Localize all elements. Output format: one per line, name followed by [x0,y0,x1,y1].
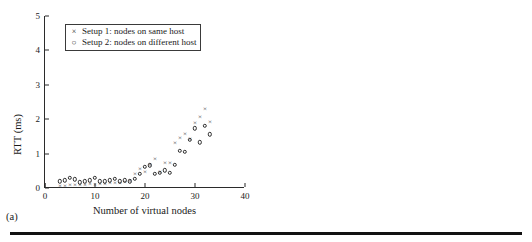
data-point-setup2 [168,170,172,174]
y-tick-label: 0 [36,183,41,193]
data-point-setup1: × [143,168,147,175]
data-point-setup2 [208,132,212,136]
data-point-setup1: × [73,181,77,188]
subfigure-label-a: (a) [6,212,18,223]
x-tick-label: 20 [141,191,150,201]
data-point-setup1: × [178,135,182,142]
data-point-setup1: × [58,182,62,189]
y-tick-label: 5 [36,11,41,21]
tick-mark [245,183,246,187]
tick-mark [45,50,49,51]
tick-mark [45,16,49,17]
x-tick-label: 30 [191,191,200,201]
data-point-setup1: × [208,118,212,125]
y-tick-a-3: 3 [36,80,46,89]
data-point-setup1: × [183,130,187,137]
panel-a: RTT (ms) 0 1 2 3 4 5 0 10 20 30 40 ×××××… [0,0,266,242]
tick-mark [45,183,46,187]
data-point-setup2 [183,150,187,154]
x-tick-label: 10 [91,191,100,201]
data-point-setup1: × [163,160,167,167]
y-tick-a-2: 2 [36,115,46,124]
tick-mark [195,183,196,187]
data-point-setup2 [153,172,157,176]
x-tick-a-1: 10 [91,187,100,201]
y-tick-a-1: 1 [36,149,46,158]
data-point-setup2 [203,124,207,128]
y-tick-label: 2 [36,114,41,124]
legend-row-setup-1: × Setup 1: nodes on same host [69,26,197,37]
x-tick-label: 0 [43,191,48,201]
data-point-setup2 [198,140,202,144]
data-point-setup2 [193,126,197,130]
tick-mark [45,119,49,120]
data-point-setup1: × [93,181,97,188]
data-point-setup2 [173,162,177,166]
data-point-setup1: × [153,155,157,162]
y-tick-label: 1 [36,148,41,158]
data-point-setup1: × [198,114,202,121]
plot-area-a: 0 1 2 3 4 5 0 10 20 30 40 ××××××××××××××… [44,16,244,188]
data-point-setup1: × [203,105,207,112]
data-point-setup1: × [168,159,172,166]
x-tick-a-4: 40 [241,187,250,201]
x-tick-label: 40 [241,191,250,201]
x-tick-a-0: 0 [43,187,48,201]
data-point-setup1: × [63,182,67,189]
data-point-setup1: × [68,181,72,188]
y-tick-a-4: 4 [36,46,46,55]
data-point-setup2 [178,149,182,153]
y-tick-label: 3 [36,79,41,89]
y-tick-label: 4 [36,45,41,55]
y-axis-label-a: RTT (ms) [13,114,24,155]
data-point-setup2 [138,171,142,175]
panel-b: Throughput (Mbps) 10 10.5 11 11.5 12 0 1… [266,0,532,242]
tick-mark [145,183,146,187]
legend-label: Setup 2: nodes on different host [82,37,197,48]
tick-mark [45,84,49,85]
y-tick-a-5: 5 [36,12,46,21]
legend-a: × Setup 1: nodes on same host ○ Setup 2:… [65,24,201,51]
legend-label: Setup 1: nodes on same host [82,26,184,37]
data-point-setup2 [163,168,167,172]
x-tick-a-2: 20 [141,187,150,201]
data-point-setup2 [133,177,137,181]
x-tick-a-3: 30 [191,187,200,201]
tick-mark [45,153,49,154]
data-point-setup1: × [193,119,197,126]
x-axis-label-a: Number of virtual nodes [45,206,244,217]
figure-container: RTT (ms) 0 1 2 3 4 5 0 10 20 30 40 ×××××… [0,0,532,242]
legend-row-setup-2: ○ Setup 2: nodes on different host [69,37,197,48]
data-point-setup1: × [173,140,177,147]
marker-circle-icon: ○ [69,37,79,48]
bottom-divider-rule [10,232,522,235]
marker-x-icon: × [69,26,79,37]
